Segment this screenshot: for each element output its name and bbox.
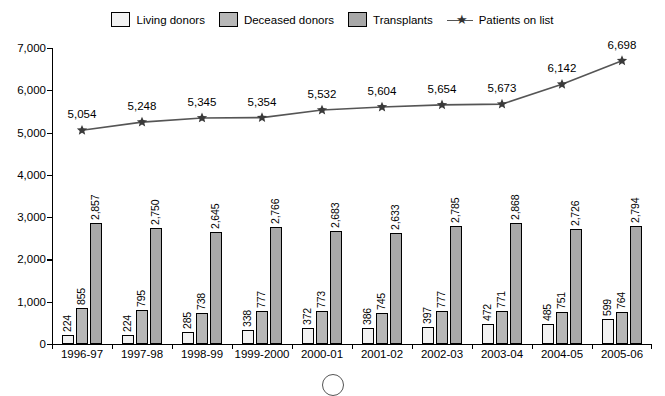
- x-axis-label: 2002-03: [421, 348, 463, 360]
- legend-item-1: Deceased donors: [219, 12, 334, 27]
- x-tick-mark: [172, 344, 173, 349]
- bar-value-label: 777: [255, 291, 267, 308]
- bar-group: 4857512,726: [542, 48, 583, 344]
- x-axis-label: 2005-06: [601, 348, 643, 360]
- x-tick-mark: [292, 344, 293, 349]
- legend-swatch-icon: [219, 12, 238, 27]
- bar: [150, 228, 163, 344]
- bar-value-label: 2,868: [509, 194, 521, 219]
- x-tick-mark: [352, 344, 353, 349]
- bar: [90, 223, 103, 344]
- bar: [496, 311, 509, 344]
- y-tick-label: 4,000: [17, 169, 46, 181]
- bar: [542, 324, 555, 345]
- line-value-label: 6,142: [548, 62, 577, 74]
- x-tick-mark: [651, 344, 652, 349]
- bar-value-label: 2,726: [569, 200, 581, 225]
- bar-value-label: 771: [495, 291, 507, 308]
- x-tick-mark: [232, 344, 233, 349]
- bar-group: 5997642,794: [602, 48, 643, 344]
- line-value-label: 5,354: [248, 96, 277, 108]
- bar: [570, 229, 583, 344]
- bar-value-label: 599: [601, 299, 613, 316]
- x-tick-mark: [112, 344, 113, 349]
- bar: [182, 332, 195, 344]
- bar-value-label: 777: [435, 291, 447, 308]
- bar-value-label: 764: [615, 292, 627, 309]
- bar: [422, 327, 435, 344]
- bar: [136, 310, 149, 344]
- bar: [376, 313, 389, 345]
- plot-area: 01,0002,0003,0004,0005,0006,0007,000 224…: [52, 48, 652, 344]
- line-value-label: 5,604: [368, 85, 397, 97]
- x-axis-label: 2000-01: [301, 348, 343, 360]
- bar: [450, 226, 463, 344]
- bar-value-label: 386: [361, 308, 373, 325]
- bar-value-label: 485: [541, 304, 553, 321]
- bar: [330, 231, 343, 344]
- legend-item-0: Living donors: [111, 12, 204, 27]
- line-value-label: 5,054: [68, 108, 97, 120]
- chart-legend: Living donorsDeceased donorsTransplants★…: [0, 12, 665, 27]
- page-number-badge: [322, 374, 344, 396]
- line-value-label: 6,698: [608, 39, 637, 51]
- bar: [196, 313, 209, 344]
- bar-value-label: 2,794: [629, 198, 641, 223]
- y-tick-label: 5,000: [17, 127, 46, 139]
- bar-value-label: 773: [315, 291, 327, 308]
- y-tick-label: 0: [40, 338, 46, 350]
- bar: [436, 311, 449, 344]
- bar-group: 2248552,857: [62, 48, 103, 344]
- bar: [510, 223, 523, 344]
- bar-value-label: 2,766: [269, 199, 281, 224]
- x-axis-label: 2004-05: [541, 348, 583, 360]
- bar: [122, 335, 135, 344]
- bar-group: 2247952,750: [122, 48, 163, 344]
- bar-value-label: 2,750: [149, 199, 161, 224]
- x-axis-label: 1997-98: [121, 348, 163, 360]
- bar-groups: 2248552,8572247952,7502857382,6453387772…: [52, 48, 652, 344]
- bar: [242, 330, 255, 344]
- legend-label: Transplants: [373, 14, 433, 26]
- y-tick-label: 7,000: [17, 42, 46, 54]
- x-tick-mark: [472, 344, 473, 349]
- bar-value-label: 2,857: [89, 195, 101, 220]
- bar-value-label: 2,785: [449, 198, 461, 223]
- bar: [302, 328, 315, 344]
- y-tick-label: 3,000: [17, 211, 46, 223]
- legend-label: Deceased donors: [244, 14, 334, 26]
- bar-value-label: 397: [421, 307, 433, 324]
- bar: [316, 311, 329, 344]
- legend-item-2: Transplants: [348, 12, 433, 27]
- bar-value-label: 745: [375, 293, 387, 310]
- x-axis-label: 2003-04: [481, 348, 523, 360]
- bar: [602, 319, 615, 344]
- x-tick-mark: [412, 344, 413, 349]
- legend-item-3: ★Patients on list: [447, 14, 554, 26]
- bar-value-label: 472: [481, 304, 493, 321]
- line-value-label: 5,248: [128, 100, 157, 112]
- bar: [62, 335, 75, 344]
- bar-value-label: 224: [61, 315, 73, 332]
- bar: [256, 311, 269, 344]
- bar: [76, 308, 89, 344]
- line-value-label: 5,654: [428, 83, 457, 95]
- bar-group: 3387772,766: [242, 48, 283, 344]
- legend-label: Patients on list: [479, 14, 554, 26]
- x-axis-label: 1998-99: [181, 348, 223, 360]
- bar-value-label: 855: [75, 288, 87, 305]
- bar: [270, 227, 283, 344]
- y-tick-label: 1,000: [17, 296, 46, 308]
- x-tick-mark: [592, 344, 593, 349]
- bar-value-label: 224: [121, 315, 133, 332]
- y-tick-label: 6,000: [17, 84, 46, 96]
- legend-swatch-icon: [111, 12, 130, 27]
- bar-value-label: 285: [181, 312, 193, 329]
- bar: [362, 328, 375, 344]
- bar-group: 2857382,645: [182, 48, 223, 344]
- x-tick-mark: [52, 344, 53, 349]
- bar-value-label: 2,633: [389, 204, 401, 229]
- x-axis-label: 2001-02: [361, 348, 403, 360]
- bar-value-label: 795: [135, 290, 147, 307]
